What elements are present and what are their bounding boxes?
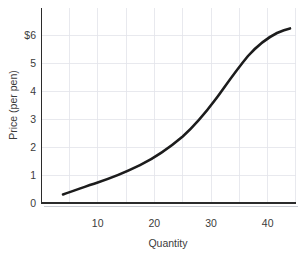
y-tick-label-6: $6	[24, 29, 36, 41]
y-axis-title: Price (per pen)	[7, 70, 19, 139]
price-quantity-supply-chart: $6 5 4 3 2 1 0 10 20 30 40 Quantity Pric…	[0, 0, 300, 259]
y-tick-label-3: 3	[30, 113, 36, 125]
x-tick-label-10: 10	[92, 217, 104, 229]
y-tick-label-1: 1	[30, 169, 36, 181]
y-tick-label-2: 2	[30, 141, 36, 153]
x-axis-title: Quantity	[148, 237, 188, 249]
y-axis-tick-labels: $6 5 4 3 2 1 0	[24, 29, 36, 209]
x-tick-label-20: 20	[148, 217, 160, 229]
y-tick-label-4: 4	[30, 85, 36, 97]
chart-figure: $6 5 4 3 2 1 0 10 20 30 40 Quantity Pric…	[0, 0, 300, 259]
x-tick-label-40: 40	[262, 217, 274, 229]
plot-background	[41, 8, 296, 203]
x-axis-tick-labels: 10 20 30 40	[92, 217, 274, 229]
y-tick-label-5: 5	[30, 57, 36, 69]
y-tick-label-0: 0	[30, 197, 36, 209]
cropped-caption-sliver	[4, 254, 144, 259]
x-tick-label-30: 30	[205, 217, 217, 229]
